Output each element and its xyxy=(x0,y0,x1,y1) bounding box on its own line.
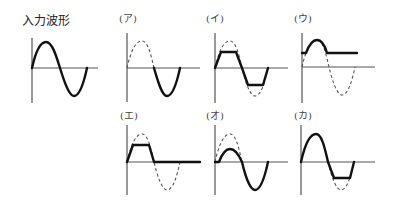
panel-o xyxy=(215,125,288,195)
attenuated-output xyxy=(215,149,268,190)
panel-a xyxy=(127,33,200,102)
panel-i xyxy=(215,33,288,103)
panel-e xyxy=(127,125,200,195)
dashed-positive-half xyxy=(127,41,154,68)
clipped-negative-output xyxy=(301,134,354,178)
clipped-positive-output xyxy=(127,145,200,162)
waveform-diagram xyxy=(0,0,396,208)
level-shifted-output xyxy=(302,40,357,53)
panel-u xyxy=(302,33,375,103)
solid-negative-half xyxy=(154,68,180,96)
panel-input xyxy=(32,38,98,103)
panel-ka xyxy=(301,125,375,195)
input-sine-wave xyxy=(32,42,87,96)
